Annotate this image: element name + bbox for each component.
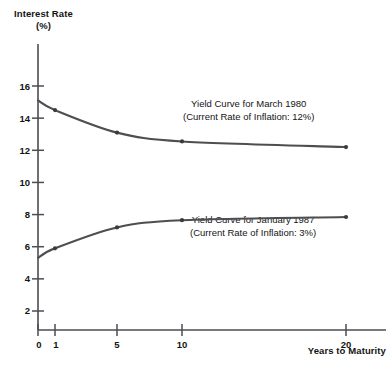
data-point-1 — [53, 108, 57, 112]
data-point-5 — [115, 131, 119, 135]
curve-march-1980 — [38, 100, 346, 147]
axis-lines — [38, 44, 386, 330]
curve-january-1987 — [38, 217, 346, 258]
data-point-10 — [180, 139, 184, 143]
data-point-1 — [53, 246, 57, 250]
data-point-20 — [344, 145, 348, 149]
data-point-20 — [344, 215, 348, 219]
yield-curve-chart: Interest Rate(%) Years to Maturity 16 14… — [0, 0, 392, 378]
data-point-5 — [115, 225, 119, 229]
plot-area — [0, 0, 392, 378]
data-point-10 — [180, 218, 184, 222]
